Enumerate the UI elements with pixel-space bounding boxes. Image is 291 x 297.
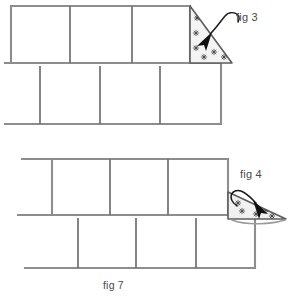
figure-canvas: fig 3 fig 4 fig 7: [0, 0, 291, 297]
lower-upper-row-dividers: [110, 159, 168, 215]
upper-assembly-lower-row: [5, 63, 221, 124]
diagram-artwork: [0, 0, 291, 297]
label-fig4: fig 4: [240, 168, 262, 180]
figure-caption-fig7: fig 7: [103, 279, 124, 291]
lower-assembly-upper-row: [18, 159, 228, 215]
lower-lower-row-dividers: [78, 218, 196, 268]
upper-lower-row-dividers: [40, 66, 160, 124]
upper-row-dividers: [70, 6, 132, 63]
lower-assembly-lower-row: [25, 219, 255, 268]
label-fig3: fig 3: [236, 11, 258, 23]
upper-assembly-upper-row: [5, 6, 221, 63]
upper-assembly: [5, 6, 239, 124]
